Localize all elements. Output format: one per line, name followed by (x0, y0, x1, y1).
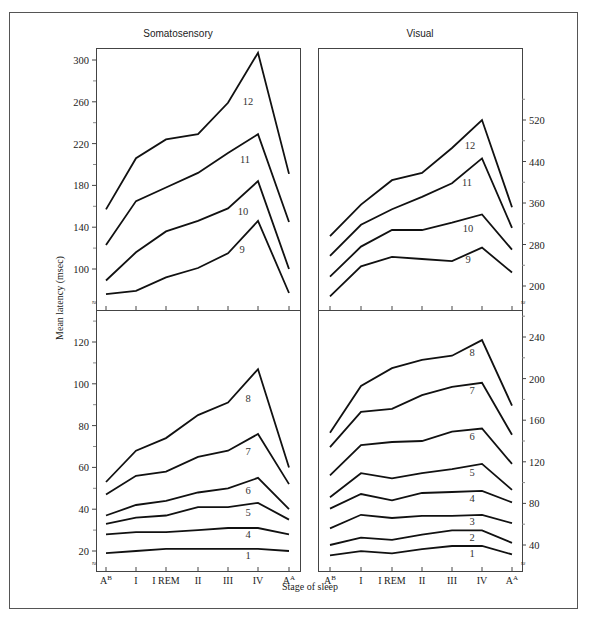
series-label-5: 5 (245, 507, 250, 518)
series-label-4: 4 (469, 493, 475, 504)
x-category-label: I (134, 575, 137, 586)
series-label-1: 1 (469, 548, 474, 559)
series-label-6: 6 (469, 431, 474, 442)
x-category-label: II (195, 575, 202, 586)
y-tick-label: 80 (529, 498, 540, 509)
panel-bottom-left: 20406080100120≈876541 (73, 311, 300, 572)
panel-top-right: 200280360440520≈1211109 (319, 49, 545, 311)
series-line-3 (330, 515, 512, 529)
panel-bottom-right: 4080120160200240≈87654321 (319, 311, 545, 572)
panel-frame (97, 49, 301, 311)
series-label-3: 3 (469, 516, 474, 527)
y-tick-label: 440 (529, 157, 545, 168)
y-tick-label: 120 (529, 457, 545, 468)
x-category-label: AB (100, 574, 112, 586)
y-tick-label: 160 (529, 415, 545, 426)
series-label-1: 1 (245, 550, 250, 561)
series-line-4 (106, 528, 289, 534)
series-label-12: 12 (465, 140, 476, 151)
y-tick-label: 100 (73, 379, 89, 390)
series-label-5: 5 (469, 467, 474, 478)
series-line-4 (330, 491, 512, 509)
series-label-11: 11 (240, 154, 250, 165)
panel-top-left: 100140180220260300≈1211109 (73, 49, 300, 311)
y-tick-label: 140 (73, 222, 89, 233)
y-tick-label: 100 (73, 264, 89, 275)
series-line-8 (106, 369, 289, 482)
axis-break-icon: ≈ (92, 559, 97, 568)
sleep-latency-figure: Somatosensory Visual Mean latency (msec)… (0, 0, 589, 626)
axis-break-icon: ≈ (521, 298, 526, 307)
y-axis-label: Mean latency (msec) (54, 256, 66, 340)
series-line-7 (106, 434, 289, 495)
y-tick-label: 220 (73, 139, 89, 150)
series-label-4: 4 (245, 529, 251, 540)
series-label-2: 2 (469, 532, 474, 543)
series-label-10: 10 (238, 206, 249, 217)
series-line-9 (106, 221, 289, 294)
x-category-label: I (359, 575, 362, 586)
axis-break-icon: ≈ (92, 298, 97, 307)
series-label-12: 12 (243, 96, 254, 107)
x-category-label: IV (477, 575, 488, 586)
y-tick-label: 360 (529, 198, 545, 209)
x-category-label: II (419, 575, 426, 586)
x-category-label: I REM (378, 575, 406, 586)
series-line-2 (330, 530, 512, 545)
series-label-8: 8 (469, 347, 474, 358)
series-label-9: 9 (465, 254, 470, 265)
x-category-label: III (223, 575, 233, 586)
y-tick-label: 20 (79, 546, 90, 557)
x-category-label: III (447, 575, 457, 586)
series-line-1 (106, 549, 289, 553)
series-line-1 (330, 546, 512, 555)
y-tick-label: 120 (73, 337, 89, 348)
series-label-7: 7 (245, 446, 250, 457)
series-line-9 (330, 248, 512, 297)
series-label-9: 9 (239, 244, 244, 255)
series-line-6 (106, 478, 289, 516)
y-tick-label: 280 (529, 240, 545, 251)
series-label-8: 8 (245, 393, 250, 404)
y-tick-label: 80 (79, 421, 90, 432)
x-category-label: IV (253, 575, 264, 586)
x-category-label: AA (506, 574, 518, 586)
y-tick-label: 260 (73, 97, 89, 108)
chart-panels: 100140180220260300≈121110920028036044052… (73, 49, 545, 572)
series-line-12 (106, 53, 289, 210)
y-tick-label: 40 (79, 504, 90, 515)
y-tick-label: 40 (529, 540, 540, 551)
series-line-10 (330, 214, 512, 276)
panel-title-somatosensory: Somatosensory (143, 28, 212, 39)
series-label-10: 10 (463, 223, 474, 234)
panel-title-visual: Visual (406, 28, 433, 39)
axis-break-icon: ≈ (521, 559, 526, 568)
series-label-6: 6 (245, 485, 250, 496)
series-label-11: 11 (462, 177, 472, 188)
series-line-6 (330, 429, 512, 476)
y-tick-label: 200 (529, 374, 545, 385)
x-category-label: I REM (152, 575, 180, 586)
y-tick-label: 520 (529, 115, 545, 126)
y-tick-label: 180 (73, 180, 89, 191)
y-tick-label: 300 (73, 55, 89, 66)
y-tick-label: 60 (79, 462, 90, 473)
y-tick-label: 240 (529, 332, 545, 343)
series-label-7: 7 (469, 385, 474, 396)
y-tick-label: 200 (529, 281, 545, 292)
